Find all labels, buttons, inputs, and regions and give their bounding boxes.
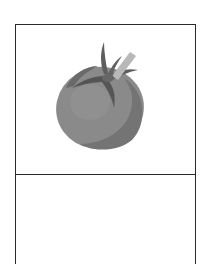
picture-card <box>15 24 196 264</box>
label-cell <box>16 175 195 265</box>
image-cell <box>16 25 195 175</box>
tomato-icon <box>54 40 154 152</box>
